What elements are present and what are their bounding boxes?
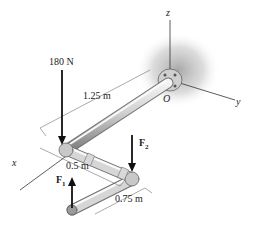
dimension-1-label: 1.25 m <box>83 91 111 101</box>
force-180n-arrow <box>58 70 66 145</box>
dimension-2-label: 0.5 m <box>66 161 89 171</box>
pipe-assembly-diagram: 180 N 1.25 m 0.5 m 0.75 m F2 F1 z y x O <box>0 0 253 236</box>
z-axis-label: z <box>166 8 170 18</box>
pipe <box>59 81 168 215</box>
y-axis-label: y <box>236 97 240 107</box>
force-f2-label: F2 <box>139 138 149 151</box>
origin-label: O <box>163 94 170 104</box>
force-f2-arrow <box>128 135 136 172</box>
x-axis-label: x <box>12 158 16 168</box>
force-180n-label: 180 N <box>49 57 74 67</box>
dimension-3-label: 0.75 m <box>115 194 143 204</box>
force-f1-label: F1 <box>56 175 66 188</box>
